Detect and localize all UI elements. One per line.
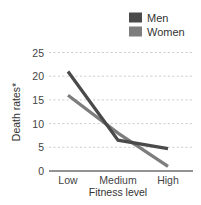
legend-swatch-women bbox=[129, 27, 142, 37]
x-axis-title: Fitness level bbox=[89, 186, 147, 198]
chart-legend: Men Women bbox=[129, 12, 185, 38]
legend-label-women: Women bbox=[147, 26, 185, 38]
series-line-men bbox=[68, 72, 168, 149]
line-chart-figure: Men Women 25 20 15 10 5 0 Death rates* bbox=[0, 0, 201, 205]
y-axis-title: Death rates* bbox=[10, 83, 22, 141]
gridlines bbox=[49, 53, 193, 148]
y-tick-label-5: 5 bbox=[38, 141, 44, 153]
y-tick-label-0: 0 bbox=[38, 165, 44, 177]
data-series-group bbox=[68, 72, 168, 167]
y-tick-label-25: 25 bbox=[32, 47, 44, 59]
y-axis-tick-labels: 25 20 15 10 5 0 bbox=[32, 47, 44, 178]
legend-swatch-men bbox=[129, 13, 142, 23]
y-tick-label-15: 15 bbox=[32, 94, 44, 106]
x-tick-label-high: High bbox=[157, 174, 179, 186]
legend-label-men: Men bbox=[147, 12, 168, 24]
y-tick-label-20: 20 bbox=[32, 70, 44, 82]
x-tick-label-medium: Medium bbox=[99, 174, 137, 186]
series-line-women bbox=[68, 95, 168, 166]
chart-canvas: Men Women 25 20 15 10 5 0 Death rates* bbox=[0, 0, 201, 205]
x-tick-label-low: Low bbox=[58, 174, 78, 186]
x-axis-tick-labels: Low Medium High bbox=[58, 174, 179, 186]
y-tick-label-10: 10 bbox=[32, 118, 44, 130]
